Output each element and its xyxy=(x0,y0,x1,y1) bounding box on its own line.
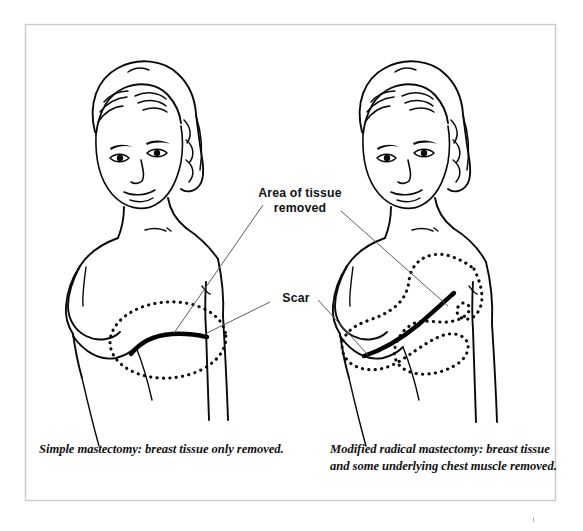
page-corner-tick-mark xyxy=(533,517,534,522)
right-figure-eye-right-pupil xyxy=(421,150,427,156)
label-scar: Scar xyxy=(272,291,320,306)
right-figure-eye-left-pupil xyxy=(384,155,390,161)
caption-simple-mastectomy: Simple mastectomy: breast tissue only re… xyxy=(39,441,289,458)
illustration-frame xyxy=(26,25,556,501)
label-area-of-tissue-removed: Area of tissue removed xyxy=(240,186,360,215)
left-figure-eye-right-pupil xyxy=(154,150,160,156)
caption-modified-radical-mastectomy: Modified radical mastectomy: breast tiss… xyxy=(330,441,558,476)
mastectomy-illustration: Area of tissue removed Scar Simple maste… xyxy=(0,0,583,531)
left-figure-eye-left-pupil xyxy=(117,155,123,161)
